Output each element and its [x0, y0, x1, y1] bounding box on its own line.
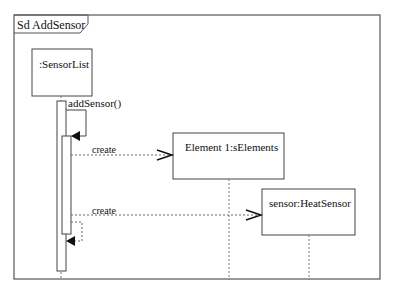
message-label-create-2: create [92, 206, 116, 216]
lifeline-box-elements[interactable] [173, 133, 284, 179]
arrowhead-filled-icon [71, 131, 80, 141]
arrowhead-filled-icon [66, 236, 75, 246]
frame-title: Sd AddSensor [17, 19, 85, 31]
activation-bar-nested [62, 136, 71, 234]
message-label-create-1: create [92, 145, 116, 155]
lifeline-box-heatsensor[interactable] [262, 189, 355, 235]
lifeline-box-sensorlist[interactable] [32, 49, 92, 96]
lifeline-label-elements: Element 1:sElements [185, 142, 278, 153]
lifeline-label-heatsensor: sensor:HeatSensor [269, 198, 351, 209]
message-label-addsensor: addSensor() [68, 98, 121, 109]
message-addsensor-line [66, 110, 86, 136]
lifeline-label-sensorlist: :SensorList [39, 59, 89, 70]
